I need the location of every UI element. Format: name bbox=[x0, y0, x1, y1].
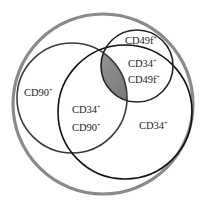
label-cd49f-in-cd34: CD49f+ bbox=[128, 74, 161, 85]
outer-circle bbox=[13, 14, 193, 194]
cd90-circle bbox=[17, 43, 127, 153]
label-cd34-in-cd49f: CD34+ bbox=[128, 58, 157, 69]
label-cd90: CD90+ bbox=[24, 87, 53, 98]
label-cd34-in-cd90: CD34+ bbox=[72, 104, 101, 115]
label-cd49f: CD49f+ bbox=[125, 35, 158, 46]
label-cd90-in-cd34: CD90+ bbox=[72, 122, 101, 133]
venn-diagram: CD49f+ CD34+ CD49f+ CD90+ CD34+ CD90+ CD… bbox=[0, 0, 204, 203]
label-cd34: CD34+ bbox=[139, 120, 168, 131]
